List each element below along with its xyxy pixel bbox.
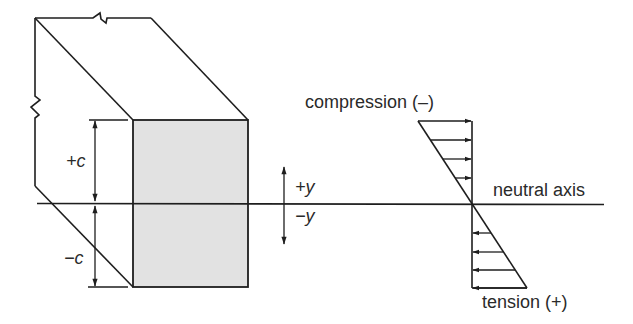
label-plus-y: +y bbox=[295, 177, 316, 197]
label-compression: compression (–) bbox=[305, 92, 434, 112]
left-edge-break bbox=[31, 18, 40, 186]
label-neutral-axis: neutral axis bbox=[493, 180, 585, 200]
neutral-axis-line bbox=[37, 204, 604, 205]
label-plus-c: +c bbox=[66, 151, 86, 171]
y-direction-indicator: +y −y bbox=[284, 167, 316, 244]
label-minus-y: −y bbox=[295, 206, 316, 226]
beam-bending-diagram: +c −c +y −y compression (–) neutra bbox=[0, 0, 633, 324]
label-tension: tension (+) bbox=[482, 292, 568, 312]
top-right-edge bbox=[151, 18, 248, 120]
beam-block bbox=[31, 13, 248, 287]
stress-distribution: compression (–) neutral axis tension (+) bbox=[305, 92, 585, 312]
tension-arrows bbox=[473, 233, 527, 288]
bottom-left-edge bbox=[35, 186, 133, 287]
compression-arrows bbox=[418, 121, 471, 178]
label-minus-c: −c bbox=[64, 248, 84, 268]
top-edge-break-left bbox=[35, 13, 151, 23]
top-left-edge bbox=[35, 18, 133, 120]
